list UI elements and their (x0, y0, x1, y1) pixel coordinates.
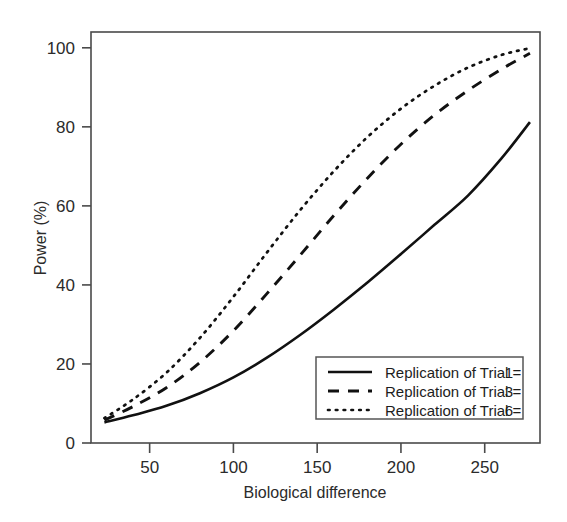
x-axis-title: Biological difference (244, 484, 387, 501)
x-axis-ticks: 50100150200250 (140, 443, 499, 477)
x-tick-label: 100 (219, 458, 247, 477)
y-axis-ticks: 020406080100 (47, 39, 91, 453)
legend-item-label: Replication of Trial = (385, 364, 522, 381)
legend-item-label: Replication of Trial = (385, 402, 522, 419)
chart-legend[interactable]: Replication of Trial =1Replication of Tr… (316, 357, 523, 419)
x-tick-label: 250 (471, 458, 499, 477)
y-tick-label: 80 (56, 118, 75, 137)
legend-item-value: 1 (505, 364, 513, 381)
y-tick-label: 0 (66, 434, 75, 453)
y-tick-label: 60 (56, 197, 75, 216)
power-curve-figure: 020406080100 50100150200250 Biological d… (0, 0, 567, 522)
x-tick-label: 150 (303, 458, 331, 477)
y-tick-label: 20 (56, 355, 75, 374)
y-tick-label: 40 (56, 276, 75, 295)
legend-item-value: 3 (505, 383, 513, 400)
y-tick-label: 100 (47, 39, 75, 58)
legend-item-value: 6 (505, 402, 513, 419)
x-tick-label: 50 (140, 458, 159, 477)
chart-canvas: 020406080100 50100150200250 Biological d… (0, 0, 567, 522)
x-tick-label: 200 (387, 458, 415, 477)
y-axis-title: Power (%) (32, 201, 49, 276)
legend-item-label: Replication of Trial = (385, 383, 522, 400)
